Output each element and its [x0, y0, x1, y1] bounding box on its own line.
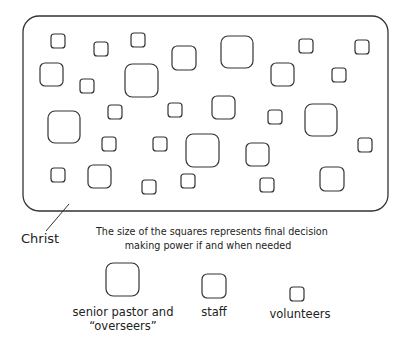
- caption: The size of the squares represents final…: [96, 225, 320, 253]
- person-square: [102, 137, 116, 151]
- person-square: [271, 63, 294, 86]
- person-square: [246, 143, 269, 166]
- person-square: [131, 33, 145, 47]
- legend-label-line: “overseers”: [68, 319, 178, 333]
- legend-label-line: staff: [194, 305, 234, 319]
- person-square: [268, 110, 282, 124]
- legend-label-volunteers: volunteers: [262, 307, 338, 321]
- christ-pointer-line: [46, 204, 69, 231]
- person-square: [320, 167, 344, 191]
- legend-label-line: volunteers: [262, 307, 338, 321]
- caption-line-2: making power if and when needed: [96, 239, 320, 253]
- person-square: [153, 137, 167, 151]
- legend-square: [202, 274, 226, 298]
- person-square: [305, 104, 337, 136]
- person-square: [355, 40, 369, 54]
- person-square: [168, 103, 182, 117]
- person-square: [221, 36, 253, 68]
- person-square: [40, 63, 63, 86]
- person-square: [51, 168, 65, 182]
- legend-square: [290, 287, 304, 301]
- people-squares: [40, 33, 372, 194]
- person-square: [260, 178, 274, 192]
- legend-label-line: senior pastor and: [68, 305, 178, 319]
- person-square: [358, 138, 372, 152]
- legend-square: [106, 263, 139, 296]
- hierarchy-diagram: [0, 0, 407, 347]
- person-square: [212, 96, 235, 119]
- person-square: [88, 165, 111, 188]
- person-square: [172, 46, 196, 70]
- person-square: [142, 180, 156, 194]
- person-square: [181, 174, 195, 188]
- person-square: [48, 111, 80, 143]
- person-square: [80, 79, 94, 93]
- person-square: [51, 34, 65, 48]
- legend-label-senior-pastor: senior pastor and “overseers”: [68, 305, 178, 333]
- legend-label-staff: staff: [194, 305, 234, 319]
- person-square: [186, 134, 219, 167]
- person-square: [125, 64, 158, 97]
- christ-label: Christ: [21, 231, 59, 246]
- caption-line-1: The size of the squares represents final…: [96, 225, 320, 239]
- person-square: [108, 105, 122, 119]
- legend-squares: [106, 263, 304, 301]
- person-square: [332, 68, 346, 82]
- person-square: [299, 39, 313, 53]
- person-square: [94, 42, 108, 56]
